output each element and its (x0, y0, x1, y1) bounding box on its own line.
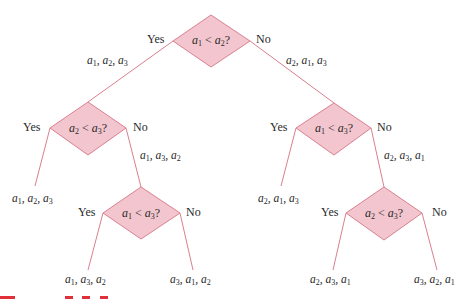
no-label-right-bottom: No (432, 206, 447, 218)
no-label-left: No (133, 121, 148, 133)
edge-right-bottom-yes (333, 213, 346, 270)
edge-root-yes (88, 41, 173, 102)
edge-left-bottom-no (180, 213, 193, 270)
condition-root: a1 < a2? (178, 34, 244, 46)
edge-left-no (126, 128, 141, 187)
condition-left: a2 < a3? (55, 122, 121, 134)
leaf-a1-a2-a3: a1, a2, a3 (12, 192, 53, 204)
no-label-root: No (256, 33, 271, 45)
tree-edges (35, 41, 437, 270)
leaf-a1-a3-a2: a1, a3, a2 (65, 273, 106, 285)
leaf-a2-a1-a3: a2, a1, a3 (258, 192, 299, 204)
yes-label-root: Yes (147, 33, 164, 45)
edge-label-root-yes: a1, a2, a3 (87, 54, 128, 66)
edge-right-no (371, 128, 384, 187)
edge-left-bottom-yes (88, 213, 103, 270)
edge-label-right-no: a2, a3, a1 (384, 149, 425, 161)
condition-right-bottom: a2 < a3? (351, 207, 417, 219)
condition-right: a1 < a3? (301, 122, 367, 134)
no-label-left-bottom: No (186, 206, 201, 218)
yes-label-right: Yes (270, 121, 287, 133)
decision-tree-diagram: a1 < a2? a2 < a3? a1 < a3? a1 < a3? a2 <… (0, 0, 470, 299)
yes-label-left-bottom: Yes (78, 206, 95, 218)
edge-left-yes (35, 128, 50, 186)
leaf-a2-a3-a1: a2, a3, a1 (310, 273, 351, 285)
leaf-a3-a1-a2: a3, a1, a2 (170, 273, 211, 285)
leaf-a3-a2-a1: a3, a2, a1 (414, 273, 455, 285)
condition-left-bottom: a1 < a3? (108, 207, 174, 219)
no-label-right: No (377, 121, 392, 133)
edge-right-yes (281, 128, 296, 186)
yes-label-left: Yes (23, 121, 40, 133)
edge-root-no (250, 41, 334, 103)
edge-label-root-no: a2, a1, a3 (286, 54, 327, 66)
edge-right-bottom-no (422, 213, 437, 270)
yes-label-right-bottom: Yes (321, 206, 338, 218)
edge-label-left-no: a1, a3, a2 (140, 149, 181, 161)
